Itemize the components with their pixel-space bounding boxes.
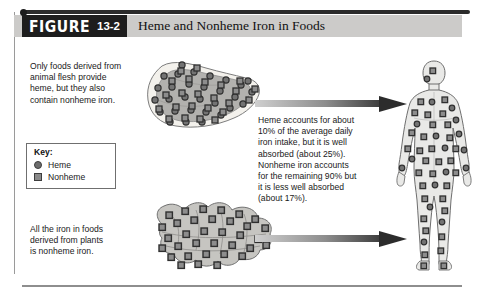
arrow-plant-to-body bbox=[255, 231, 407, 247]
key-legend-box: Key: Heme Nonheme bbox=[26, 143, 116, 189]
key-item-heme: Heme bbox=[34, 160, 71, 170]
key-item-nonheme-label: Nonheme bbox=[48, 172, 85, 182]
annotation-absorption: Heme accounts for about 10% of the avera… bbox=[258, 115, 406, 205]
filled-square-icon bbox=[34, 173, 42, 181]
key-item-heme-label: Heme bbox=[48, 160, 71, 170]
arrow-animal-to-body bbox=[255, 96, 407, 112]
figure-header: FIGURE 13-2 Heme and Nonheme Iron in Foo… bbox=[14, 10, 462, 37]
figure-title: Heme and Nonheme Iron in Foods bbox=[138, 15, 325, 37]
frame-bottom-rule bbox=[22, 285, 462, 287]
key-title: Key: bbox=[34, 147, 53, 157]
human-body-figure bbox=[396, 58, 472, 272]
figure-label: FIGURE bbox=[29, 17, 90, 35]
meat-cut-shape bbox=[142, 56, 264, 138]
figure-root: FIGURE 13-2 Heme and Nonheme Iron in Foo… bbox=[0, 0, 487, 299]
frame-left-rule bbox=[14, 12, 15, 274]
body-outline bbox=[397, 61, 471, 270]
annotation-plant-foods: All the iron in foods derived from plant… bbox=[30, 224, 162, 258]
header-rod-decoration bbox=[22, 10, 470, 14]
filled-circle-icon bbox=[34, 161, 42, 169]
figure-tag: FIGURE 13-2 bbox=[22, 15, 127, 37]
key-item-nonheme: Nonheme bbox=[34, 172, 85, 182]
figure-number: 13-2 bbox=[97, 20, 120, 32]
